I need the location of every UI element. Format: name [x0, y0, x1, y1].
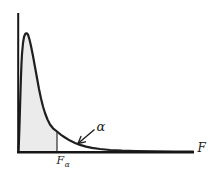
tail-area-label: α — [97, 119, 106, 134]
x-axis-label: F — [197, 141, 207, 155]
distribution-plot: F Fα α — [0, 0, 208, 176]
alpha-arrow — [78, 130, 95, 144]
figure-canvas: F Fα α — [0, 0, 208, 176]
critical-value-subscript: α — [65, 160, 70, 169]
critical-value-label: Fα — [56, 154, 70, 169]
critical-value-base: F — [56, 154, 65, 167]
shaded-region — [19, 33, 58, 152]
